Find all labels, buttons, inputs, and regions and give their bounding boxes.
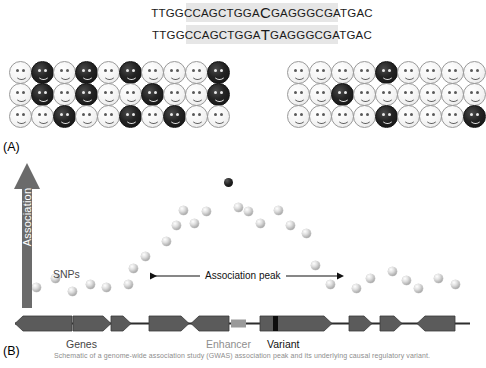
sequence-prefix: TTGGCCAGCTGGA: [151, 7, 260, 19]
smile-icon: [213, 116, 226, 124]
unaffected-individual-icon: [309, 83, 332, 106]
unaffected-individual-icon: [441, 105, 464, 128]
unaffected-individual-icon: [419, 61, 442, 84]
unaffected-individual-icon: [119, 83, 142, 106]
unaffected-individual-icon: [397, 105, 420, 128]
smile-icon: [169, 116, 182, 124]
cohort-grid-right: [287, 61, 485, 127]
smile-icon: [81, 116, 94, 124]
snp-point: [326, 280, 335, 289]
unaffected-individual-icon: [287, 83, 310, 106]
smile-icon: [293, 94, 306, 102]
sequence-suffix: GAGGGCGATGAC: [270, 29, 372, 41]
smile-icon: [15, 94, 28, 102]
snp-point: [414, 284, 423, 293]
variant-label: Variant: [267, 338, 300, 350]
snp-point: [388, 267, 397, 276]
snps-label: SNPs: [53, 268, 80, 280]
smile-icon: [125, 116, 138, 124]
affected-individual-icon: [53, 105, 76, 128]
smile-icon: [425, 94, 438, 102]
smile-icon: [469, 72, 482, 80]
smile-icon: [191, 94, 204, 102]
snp-point: [256, 219, 265, 228]
unaffected-individual-icon: [53, 83, 76, 106]
gene-1: [15, 316, 72, 331]
smile-icon: [59, 94, 72, 102]
smile-icon: [125, 94, 138, 102]
unaffected-individual-icon: [75, 105, 98, 128]
smile-icon: [213, 72, 226, 80]
smile-icon: [381, 116, 394, 124]
snp-point: [286, 221, 295, 230]
unaffected-individual-icon: [397, 83, 420, 106]
smile-icon: [447, 94, 460, 102]
smile-icon: [469, 116, 482, 124]
smile-icon: [425, 72, 438, 80]
smile-icon: [103, 116, 116, 124]
unaffected-individual-icon: [31, 105, 54, 128]
unaffected-individual-icon: [185, 105, 208, 128]
gene-2: [73, 316, 111, 331]
smile-icon: [103, 72, 116, 80]
sequence-allele-c: C: [260, 5, 271, 20]
unaffected-individual-icon: [419, 105, 442, 128]
snp-point: [352, 284, 361, 293]
unaffected-individual-icon: [375, 83, 398, 106]
affected-individual-icon: [119, 105, 142, 128]
snp-point: [162, 237, 171, 246]
gene-6-with-variant: [260, 316, 332, 331]
unaffected-individual-icon: [97, 83, 120, 106]
affected-individual-icon: [31, 83, 54, 106]
unaffected-individual-icon: [141, 105, 164, 128]
smile-icon: [15, 116, 28, 124]
smile-icon: [37, 72, 50, 80]
snp-point: [124, 280, 133, 289]
unaffected-individual-icon: [287, 105, 310, 128]
snp-point: [402, 276, 411, 285]
smile-icon: [447, 116, 460, 124]
unaffected-individual-icon: [463, 61, 486, 84]
smile-icon: [191, 72, 204, 80]
sequence-prefix: TTGGCCAGCTGGA: [152, 29, 261, 41]
genes-label: Genes: [66, 338, 97, 350]
cohort-row: [9, 83, 229, 105]
unaffected-individual-icon: [9, 105, 32, 128]
snp-point: [234, 203, 243, 212]
affected-individual-icon: [207, 61, 230, 84]
snp-point: [102, 283, 111, 292]
unaffected-individual-icon: [441, 83, 464, 106]
unaffected-individual-icon: [9, 83, 32, 106]
snp-point: [244, 207, 253, 216]
smile-icon: [381, 72, 394, 80]
gene-track: [0, 300, 484, 340]
smile-icon: [403, 94, 416, 102]
smile-icon: [59, 72, 72, 80]
smile-icon: [337, 116, 350, 124]
unaffected-individual-icon: [141, 61, 164, 84]
cohort-row: [287, 105, 485, 127]
association-peak-label: Association peak: [205, 270, 281, 281]
causal-variant-marker: [273, 316, 278, 331]
smile-icon: [103, 94, 116, 102]
gene-4: [149, 316, 189, 331]
smile-icon: [59, 116, 72, 124]
unaffected-individual-icon: [163, 61, 186, 84]
affected-individual-icon: [207, 83, 230, 106]
smile-icon: [81, 72, 94, 80]
snp-point: [202, 207, 211, 216]
unaffected-individual-icon: [353, 83, 376, 106]
unaffected-individual-icon: [53, 61, 76, 84]
unaffected-individual-icon: [309, 105, 332, 128]
snp-point: [86, 280, 95, 289]
smile-icon: [337, 94, 350, 102]
affected-individual-icon: [75, 61, 98, 84]
snp-point: [172, 221, 181, 230]
association-arrow-icon: [13, 163, 41, 308]
unaffected-individual-icon: [185, 83, 208, 106]
association-axis: Association: [13, 163, 41, 308]
snp-point: [141, 252, 150, 261]
unaffected-individual-icon: [441, 61, 464, 84]
smile-icon: [315, 72, 328, 80]
cohort-grid-left: [9, 61, 229, 127]
